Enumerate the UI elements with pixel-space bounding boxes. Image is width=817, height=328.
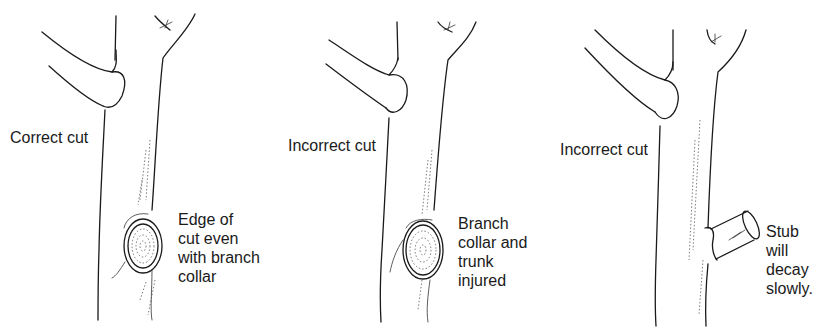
panel-incorrect-cut-flush: Incorrect cut Branch collar and trunk in… [272,0,544,328]
panel-title-correct-cut: Correct cut [10,128,88,147]
caption-incorrect-cut-stub: Stub will decay slowly. [766,222,813,298]
panel-title-incorrect-cut-flush: Incorrect cut [288,136,376,155]
panel-title-incorrect-cut-stub: Incorrect cut [560,140,648,159]
panel-correct-cut: Correct cut Edge of cut even with branch… [0,0,272,328]
panel-incorrect-cut-stub: Incorrect cut Stub will decay slowly. [545,0,817,328]
caption-correct-cut: Edge of cut even with branch collar [178,210,260,286]
caption-incorrect-cut-flush: Branch collar and trunk injured [458,214,527,290]
